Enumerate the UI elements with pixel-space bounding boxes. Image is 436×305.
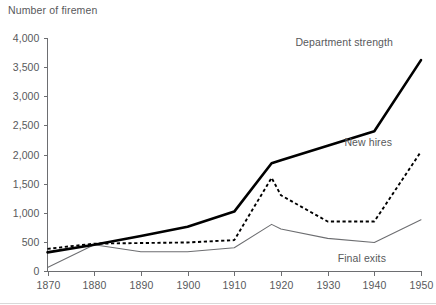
series-label-final-exits: Final exits: [338, 252, 386, 264]
y-tick-label: 1,000: [13, 207, 40, 219]
y-axis-ticks: [44, 39, 48, 272]
y-tick-label: 2,500: [13, 119, 40, 131]
line-chart-plot: 05001,0001,5002,0002,5003,0003,5004,000 …: [0, 0, 436, 305]
x-axis-tick-labels: 187018801890190019101920193019401950: [37, 279, 434, 291]
y-tick-label: 2,000: [13, 149, 40, 161]
x-tick-label: 1900: [177, 279, 201, 291]
x-tick-label: 1880: [83, 279, 107, 291]
y-tick-label: 3,000: [13, 90, 40, 102]
y-tick-label: 500: [22, 236, 40, 248]
x-tick-label: 1920: [270, 279, 294, 291]
series-label-new-hires: New hires: [344, 136, 392, 148]
y-tick-label: 4,000: [13, 32, 40, 44]
x-tick-label: 1910: [223, 279, 247, 291]
y-axis-tick-labels: 05001,0001,5002,0002,5003,0003,5004,000: [13, 32, 40, 277]
x-tick-label: 1870: [37, 279, 61, 291]
y-tick-label: 1,500: [13, 178, 40, 190]
y-tick-label: 0: [34, 265, 40, 277]
x-tick-label: 1930: [317, 279, 341, 291]
series-line-department-strength: [48, 60, 422, 252]
x-tick-label: 1950: [410, 279, 434, 291]
x-tick-label: 1890: [130, 279, 154, 291]
y-tick-label: 3,500: [13, 61, 40, 73]
x-tick-label: 1940: [363, 279, 387, 291]
chart-container: Number of firemen 05001,0001,5002,0002,5…: [0, 0, 436, 305]
series-label-department-strength: Department strength: [295, 36, 393, 48]
series-line-new-hires: [48, 152, 422, 249]
